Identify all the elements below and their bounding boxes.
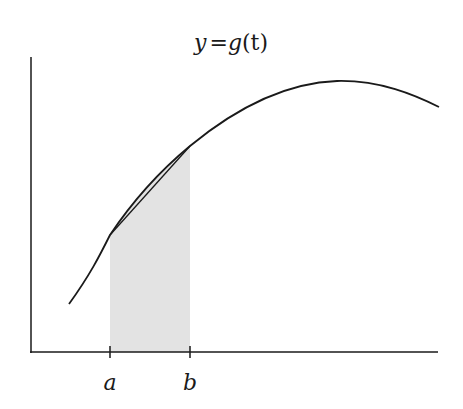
shaded-area — [110, 146, 190, 352]
title-eq: = — [209, 30, 227, 55]
title-y: y — [193, 30, 207, 55]
title-arg: (t) — [242, 30, 268, 55]
tick-label-b: b — [183, 370, 197, 395]
chart-title: y=g(t) — [193, 30, 268, 55]
diagram: a b y=g(t) — [0, 0, 463, 409]
title-g: g — [228, 30, 242, 55]
tick-label-a: a — [103, 370, 116, 395]
